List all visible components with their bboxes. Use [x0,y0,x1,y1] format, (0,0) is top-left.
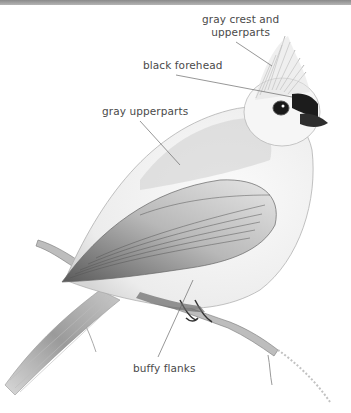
label-line: black forehead [143,59,223,72]
label-line: gray upperparts [102,105,188,118]
eye [273,101,289,115]
label-buffy-flanks: buffy flanks [133,362,196,375]
leader-line-crest [236,42,272,66]
label-gray-upperparts: gray upperparts [102,105,188,118]
beak [300,113,328,126]
label-gray-crest: gray crest and upperparts [202,13,279,39]
label-line: buffy flanks [133,362,196,375]
label-line: upperparts [202,26,279,39]
label-line: gray crest and [202,13,279,26]
label-black-forehead: black forehead [143,59,223,72]
tail [5,290,120,395]
